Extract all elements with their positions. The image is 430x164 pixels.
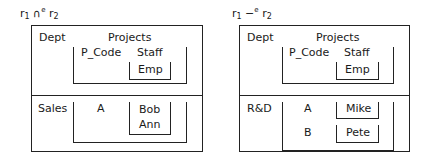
left-relation-title: r1 ∩e r2 [20,7,59,21]
right-row-pcode: A [304,103,312,114]
right-header-separator [239,95,410,96]
right-row-dept: R&D [247,103,272,114]
left-header-separator [31,95,203,96]
title-sub2: 2 [54,12,59,21]
left-header-projects: Projects [108,32,151,43]
left-row-pcode: A [97,103,105,114]
right-header-emp: Emp [345,64,370,75]
right-header-staff: Staff [344,47,370,58]
right-relation-title: r1 −e r2 [232,7,272,21]
left-row-dept: Sales [38,103,67,114]
left-header-dept: Dept [39,32,66,43]
left-header-emp: Emp [138,64,163,75]
left-header-staff: Staff [137,47,163,58]
right-header-pcode: P_Code [289,47,329,58]
left-row-staff-emp: Bob [139,104,160,115]
right-row-staff-emp: Mike [346,103,371,114]
right-header-projects: Projects [316,32,359,43]
right-row-pcode: B [304,127,312,138]
title-operator: − [242,7,255,20]
title-sub2: 2 [267,12,272,21]
left-header-pcode: P_Code [81,47,121,58]
title-operator: ∩ [30,7,42,20]
right-header-dept: Dept [247,32,274,43]
right-row-staff-emp: Pete [346,127,370,138]
title-r2: r [46,7,54,20]
title-r2: r [259,7,267,20]
left-row-staff-emp: Ann [139,119,160,130]
